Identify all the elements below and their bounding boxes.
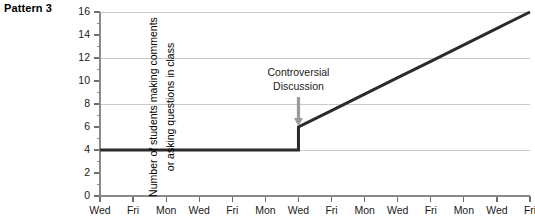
y-axis-label-line-2: or asking questions in class xyxy=(71,8,269,206)
x-tick-label: Fri xyxy=(325,204,337,216)
annotation-line-1: Controversial xyxy=(268,66,330,78)
x-tick-label: Wed xyxy=(486,204,508,216)
annotation-line-2: Discussion xyxy=(273,80,324,92)
x-tick-label: Fri xyxy=(425,204,437,216)
x-tick-label: Fri xyxy=(524,204,535,216)
y-axis-label: Number of students making comments or as… xyxy=(40,8,76,206)
x-tick-label: Wed xyxy=(288,204,310,216)
x-tick-label: Mon xyxy=(354,204,375,216)
chart-figure: Pattern 3 Number of students making comm… xyxy=(0,0,535,222)
x-tick-label: Wed xyxy=(387,204,409,216)
x-tick-label: Mon xyxy=(454,204,475,216)
